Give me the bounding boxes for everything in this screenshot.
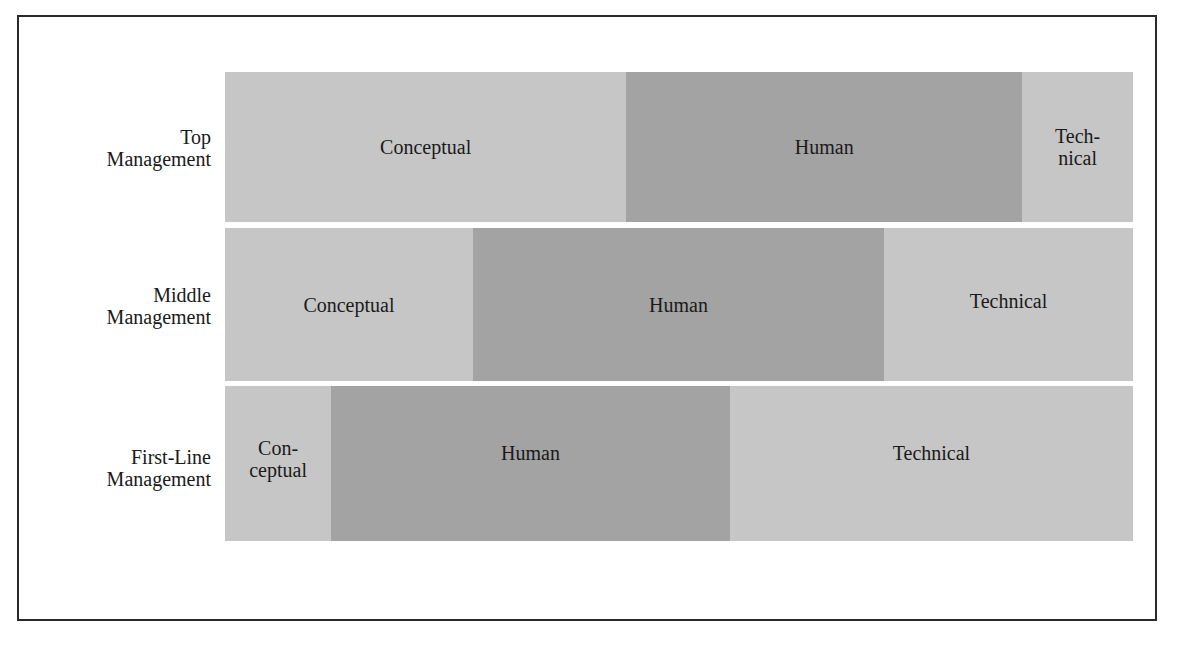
segment-label: Tech- — [1055, 125, 1100, 147]
bar-first-line-management: Con- ceptual Human Technical — [225, 386, 1133, 541]
segment-label: Conceptual — [303, 294, 394, 316]
segment-conceptual: Conceptual — [225, 72, 626, 222]
segment-technical: Technical — [884, 228, 1133, 381]
segment-human: Human — [331, 386, 730, 541]
row-label-line: Management — [11, 306, 211, 328]
segment-conceptual: Conceptual — [225, 228, 473, 381]
segment-label: Technical — [970, 290, 1047, 312]
row-label-line: First-Line — [11, 446, 211, 468]
segment-human: Human — [473, 228, 884, 381]
bar-middle-management: Conceptual Human Technical — [225, 228, 1133, 381]
segment-technical: Technical — [730, 386, 1133, 541]
row-label-top-management: Top Management — [11, 126, 211, 170]
segment-label: Human — [501, 442, 560, 464]
row-label-middle-management: Middle Management — [11, 284, 211, 328]
segment-label: Technical — [893, 442, 970, 464]
segment-human: Human — [626, 72, 1022, 222]
segment-label: nical — [1055, 147, 1100, 169]
segment-label: Conceptual — [380, 136, 471, 158]
segment-label: Human — [649, 294, 708, 316]
segment-label: ceptual — [249, 459, 307, 481]
segment-technical: Tech- nical — [1022, 72, 1133, 222]
segment-label: Con- — [249, 437, 307, 459]
row-label-first-line-management: First-Line Management — [11, 446, 211, 490]
segment-label: Human — [795, 136, 854, 158]
row-label-line: Management — [11, 148, 211, 170]
segment-conceptual: Con- ceptual — [225, 386, 331, 541]
row-label-line: Management — [11, 468, 211, 490]
row-label-line: Middle — [11, 284, 211, 306]
row-label-line: Top — [11, 126, 211, 148]
bar-top-management: Conceptual Human Tech- nical — [225, 72, 1133, 222]
